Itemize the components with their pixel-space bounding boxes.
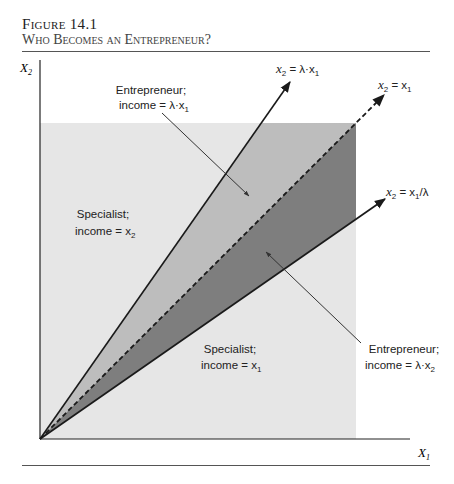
region-label-specialist-upper: Specialist; (77, 208, 129, 220)
ray-steep-label: x2 = λ·x1 (275, 61, 320, 78)
ray-shallow-label: x2 = x1/λ (385, 184, 429, 201)
x-axis-label: X1 (417, 445, 430, 462)
diagram: X2 X1 x2 = λ·x1 x2 = x1 x2 = x1/λ Entrep… (0, 0, 454, 484)
region-label-entrepreneur-lower: Entrepreneur; (369, 343, 439, 355)
ray-diagonal-label: x2 = x1 (377, 77, 412, 94)
region-label-entrepreneur-upper-income: income = λ·x1 (119, 99, 190, 114)
region-label-entrepreneur-upper: Entrepreneur; (116, 84, 186, 96)
region-label-specialist-lower: Specialist; (204, 343, 256, 355)
region-label-entrepreneur-lower-income: income = λ·x2 (365, 359, 436, 374)
y-axis-label: X2 (19, 60, 32, 77)
